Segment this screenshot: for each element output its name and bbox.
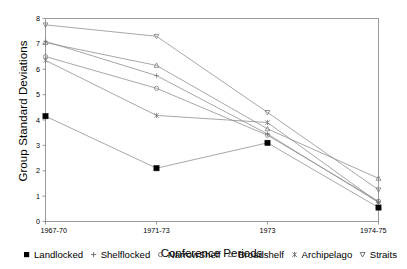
- triangle-icon: [226, 250, 235, 259]
- y-axis-tick-label: 7: [36, 39, 40, 48]
- legend-item-archipelago[interactable]: Archipelago: [290, 249, 353, 260]
- y-axis-tick-label: 2: [36, 166, 40, 175]
- legend-label: Archipelago: [302, 249, 353, 260]
- series-line: [46, 60, 379, 202]
- series-line: [46, 43, 379, 179]
- chart-container: Group Standard Deviations Conference Per…: [0, 0, 407, 269]
- x-axis-tick-label: 1973: [260, 226, 276, 235]
- inverted-triangle-icon: [358, 250, 367, 259]
- y-axis-tick-label: 5: [36, 90, 40, 99]
- series-line: [46, 25, 379, 190]
- data-point-marker: [154, 166, 159, 171]
- data-point-marker: [43, 114, 48, 119]
- data-point-marker: [265, 140, 270, 145]
- legend-label: Shelflocked: [101, 249, 151, 260]
- legend-label: Landlocked: [34, 249, 83, 260]
- filled-square-icon: [22, 250, 31, 259]
- y-axis-tick-label: 3: [36, 141, 40, 150]
- data-point-marker: [43, 58, 47, 63]
- plus-icon: [89, 250, 98, 259]
- asterisk-icon: [290, 250, 299, 259]
- y-axis-tick-label: 0: [36, 217, 40, 226]
- y-axis-tick-label: 1: [36, 192, 40, 201]
- y-axis-tick-label: 8: [36, 14, 40, 23]
- x-axis-tick-label: 1971-73: [143, 226, 169, 235]
- legend-label: Broadshelf: [238, 249, 284, 260]
- legend-label: NarrowShelf: [168, 249, 221, 260]
- data-point-marker: [154, 73, 159, 78]
- series-line: [46, 116, 379, 207]
- plot-area: 0123456781967-701971-7319731974-75: [0, 0, 407, 269]
- legend-item-shelflocked[interactable]: Shelflocked: [89, 249, 151, 260]
- series-line: [46, 57, 379, 202]
- legend-item-straits[interactable]: Straits: [358, 249, 397, 260]
- circle-icon: [156, 250, 165, 259]
- legend-item-broadshelf[interactable]: Broadshelf: [226, 249, 284, 260]
- x-axis-tick-label: 1974-75: [360, 226, 386, 235]
- legend-item-landlocked[interactable]: Landlocked: [22, 249, 83, 260]
- plot-frame: [46, 19, 379, 222]
- legend-item-narrowshelf[interactable]: NarrowShelf: [156, 249, 221, 260]
- y-axis-tick-label: 4: [36, 116, 40, 125]
- y-axis-tick-label: 6: [36, 65, 40, 74]
- chart-legend: LandlockedShelflockedNarrowShelfBroadshe…: [0, 246, 407, 262]
- data-point-marker: [376, 205, 381, 210]
- legend-label: Straits: [370, 249, 397, 260]
- x-axis-tick-label: 1967-70: [41, 226, 67, 235]
